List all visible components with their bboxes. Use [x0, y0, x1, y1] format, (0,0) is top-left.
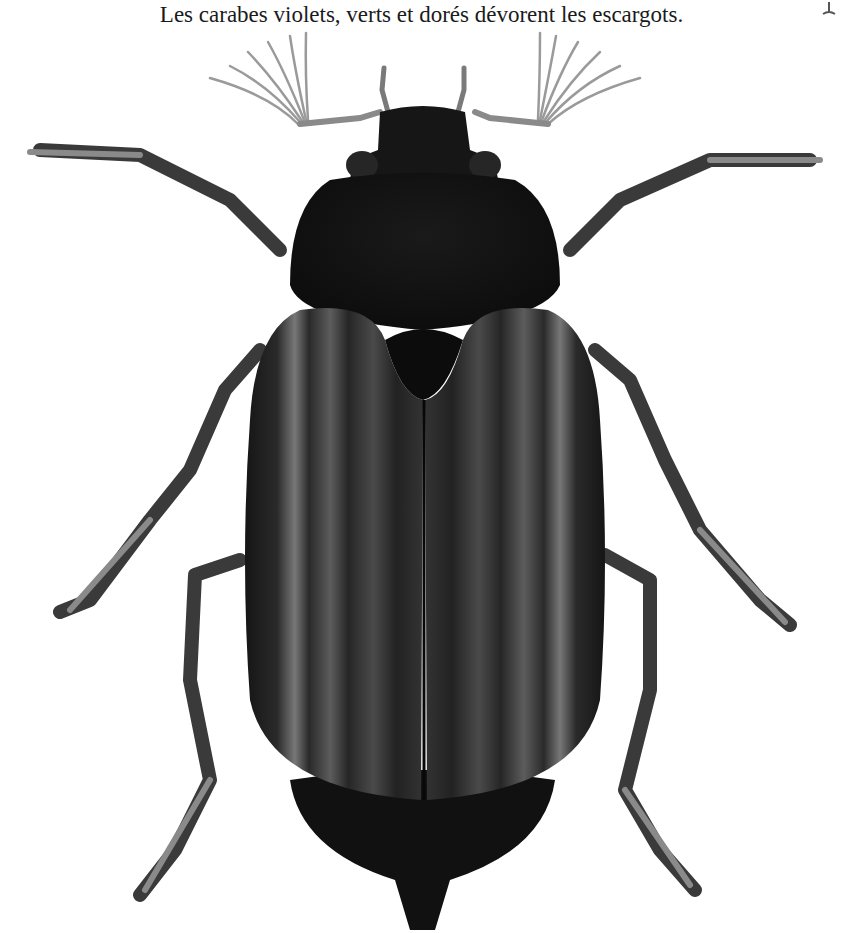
right-antenna	[475, 33, 640, 124]
caption-text: Les carabes violets, verts et dorés dévo…	[0, 2, 843, 28]
left-elytron	[245, 308, 423, 800]
beetle-illustration	[0, 0, 843, 933]
corner-fragment-icon	[818, 2, 840, 16]
left-antenna	[210, 33, 380, 124]
beetle-pronotum	[290, 173, 560, 331]
mouth-palps	[382, 68, 464, 112]
right-elytron	[425, 308, 605, 800]
